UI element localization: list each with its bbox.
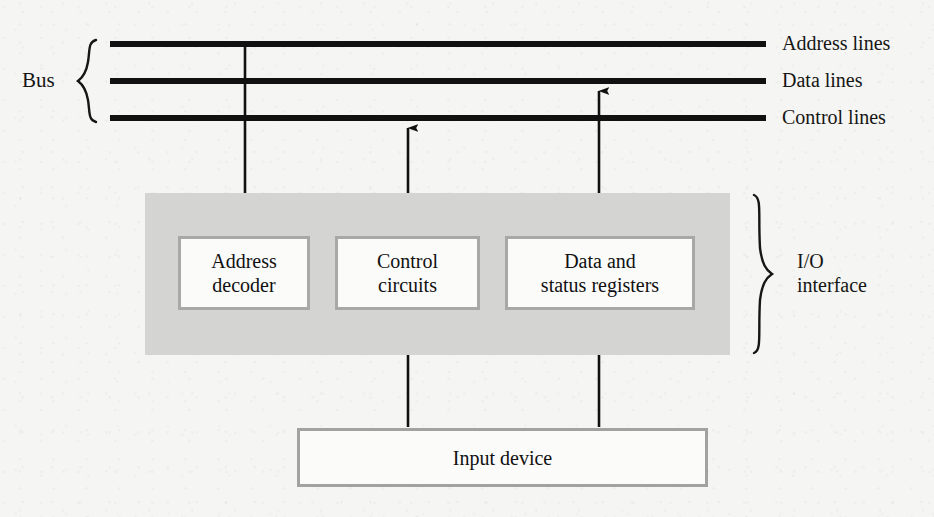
bus-brace <box>78 40 96 122</box>
io-interface-brace <box>754 195 772 353</box>
io-interface-label-line1: I/O <box>797 250 867 274</box>
io-interface-figure: Bus Address lines Data lines Control lin… <box>0 0 934 517</box>
data-status-registers-label-group: Data and status registers <box>505 236 695 310</box>
control-circuits-label-group: Control circuits <box>335 236 480 310</box>
address-decoder-label-group: Address decoder <box>178 236 310 310</box>
control-lines-label: Control lines <box>782 106 886 130</box>
input-device-label: Input device <box>297 428 708 487</box>
bus-lines <box>110 44 766 118</box>
data-status-registers-label-line1: Data and <box>564 249 636 273</box>
control-circuits-label-line1: Control <box>377 249 438 273</box>
data-lines-label: Data lines <box>782 69 863 93</box>
bus-label: Bus <box>22 68 55 93</box>
control-circuits-label-line2: circuits <box>378 273 437 297</box>
io-interface-label-group: I/O interface <box>797 250 867 297</box>
address-decoder-label-line1: Address <box>211 249 277 273</box>
io-interface-label-line2: interface <box>797 274 867 298</box>
data-status-registers-label-line2: status registers <box>541 273 659 297</box>
address-decoder-label-line2: decoder <box>212 273 275 297</box>
address-lines-label: Address lines <box>782 32 890 56</box>
